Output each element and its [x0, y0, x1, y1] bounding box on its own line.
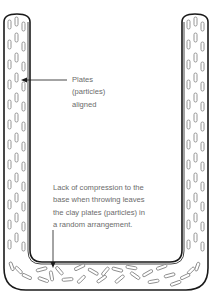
vessel-cross-section-diagram: Plates (particles) aligned Lack of compr… [0, 0, 213, 295]
arrow-to-base-particles [51, 230, 56, 268]
vessel-outline-svg [0, 0, 213, 295]
vessel-outer-wall [4, 14, 208, 290]
aligned-particles-label: Plates (particles) aligned [72, 74, 132, 111]
random-particles-label: Lack of compression to the base when thr… [53, 182, 173, 232]
